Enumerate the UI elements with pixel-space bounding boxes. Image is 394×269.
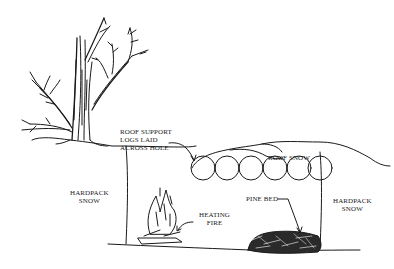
roof-snow-label: ROOF SNOW [268,154,310,162]
pine-bed-icon [248,231,321,253]
heating-fire-label: HEATING FIRE [199,211,230,227]
fire-icon [138,188,182,244]
heating-fire-pointer [178,222,193,230]
roof-logs [191,156,332,180]
roof-support-label: ROOF SUPPORT LOGS LAID ACROSS HOLE [120,128,172,152]
hardpack-snow-left-label: HARDPACK SNOW [70,189,109,205]
tree-icon [22,18,148,146]
left-wall-line [126,146,128,244]
floor-line [108,244,360,250]
hardpack-snow-right-label: HARDPACK SNOW [333,197,372,213]
roof-support-pointer [169,143,194,160]
snow-shelter-diagram: ROOF SUPPORT LOGS LAID ACROSS HOLE ROOF … [0,0,394,269]
pine-bed-pointer [278,199,300,232]
pine-bed-label: PINE BED [246,195,278,203]
diagram-drawing [0,0,394,269]
right-wall-line [320,152,322,248]
